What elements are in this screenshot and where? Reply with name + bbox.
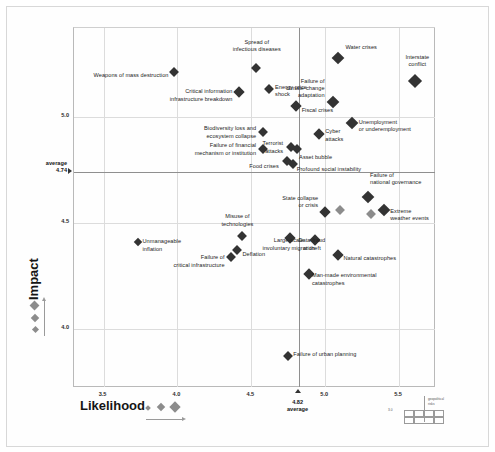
data-point-label: Extreme weather events [390, 208, 429, 223]
data-point-label: Unmanageable inflation [143, 238, 182, 253]
x-tick-label: 5.5 [390, 391, 406, 397]
average-likelihood-marker [295, 389, 301, 393]
data-point-label: Failure of climate-change adaptation [286, 78, 325, 100]
mini-cell [404, 417, 414, 424]
x-axis-title: Likelihood [80, 398, 145, 413]
data-point-marker[interactable] [290, 101, 301, 112]
data-point-label: Cyber attacks [325, 128, 343, 143]
data-point-marker[interactable] [362, 191, 375, 204]
gridline-x-3.5 [104, 28, 105, 387]
mini-legend-tick: 3.0 [388, 408, 392, 412]
data-point-label: Food crises [249, 163, 278, 170]
data-point-label: Interstate conflict [372, 54, 462, 69]
data-point-label: Natural catastrophes [343, 255, 396, 262]
data-point-label: Failure of national governance [370, 172, 421, 187]
y-tick-label: 4.0 [51, 324, 69, 330]
mini-cell [424, 410, 434, 417]
data-point-marker[interactable] [332, 51, 345, 64]
plot-right-border [434, 28, 435, 387]
mini-cell [434, 410, 444, 417]
plot-bottom-border [74, 386, 435, 387]
data-point-marker[interactable] [283, 351, 293, 361]
y-tick-label: 4.5 [51, 218, 69, 224]
data-point-marker[interactable] [335, 205, 345, 215]
x-tick-label: 5.0 [316, 391, 332, 397]
mini-cell [414, 410, 424, 417]
data-point-label: Asset bubble [299, 154, 332, 161]
data-point-label: Terrorist attacks [263, 140, 284, 155]
gridline-x-4.5 [251, 28, 252, 387]
data-point-label: State collapse or crisis [282, 195, 318, 210]
data-point-marker[interactable] [133, 238, 141, 246]
data-point-marker[interactable] [378, 204, 391, 217]
data-point-label: Fiscal crises [302, 107, 333, 114]
gridline-x-4.0 [177, 28, 178, 387]
data-point-marker[interactable] [408, 74, 422, 88]
average-impact-marker [68, 168, 72, 174]
data-point-marker[interactable] [366, 209, 376, 219]
legend-arrow-up [42, 297, 46, 301]
data-point-marker[interactable] [314, 128, 325, 139]
average-likelihood-label: 4.82 average [273, 399, 323, 414]
data-point-label: Profound social instability [297, 166, 361, 173]
mini-legend-line [424, 396, 425, 422]
gridline-y-4.0 [74, 329, 435, 330]
data-point-marker[interactable] [264, 84, 274, 94]
mini-legend-label-1: geopolitical [428, 397, 444, 401]
data-point-label: Spread of infectious diseases [212, 39, 302, 54]
legend-arrow-right [182, 417, 186, 421]
average-impact-label: average 4.74 [23, 160, 67, 175]
data-point-marker[interactable] [234, 86, 245, 97]
data-point-label: Critical information infrastructure brea… [170, 88, 233, 103]
data-point-marker[interactable] [345, 117, 358, 130]
data-point-label: Failure of financial mechanism or instit… [195, 142, 257, 157]
x-tick-label: 4.5 [242, 391, 258, 397]
data-point-label: Weapons of mass destruction [94, 72, 169, 79]
legend-h-line [146, 419, 182, 420]
data-point-label: Failure of urban planning [293, 351, 356, 358]
x-tick-label: 4.0 [168, 391, 184, 397]
data-point-marker[interactable] [320, 207, 331, 218]
mini-cell [404, 410, 414, 417]
data-point-label: Man-made environmental catastrophes [312, 272, 377, 287]
y-tick-label: 5.0 [51, 112, 69, 118]
data-point-marker[interactable] [226, 252, 236, 262]
legend-axis-line [44, 301, 45, 336]
data-point-label: Unemployment or underemployment [359, 119, 411, 134]
gridline-y-5.0 [74, 117, 435, 118]
data-point-label: Water crises [345, 44, 376, 51]
data-point-label: Deflation [243, 251, 266, 258]
data-point-label: Biodiversity loss and ecosystem collapse [204, 125, 256, 140]
mini-legend: geopolitical risks 3.0 [398, 392, 458, 434]
global-risks-landscape-chart: Impact Likelihood geopolitical risks 3.0… [0, 0, 495, 452]
mini-legend-label-2: risks [428, 402, 435, 406]
data-point-marker[interactable] [258, 127, 268, 137]
data-point-label: Misuse of technologies [192, 213, 282, 228]
data-point-label: Failure of critical infrastructure [173, 254, 224, 269]
data-point-label: Data fraud or theft [267, 237, 357, 252]
y-axis-title: Impact [26, 258, 41, 300]
mini-cell [434, 417, 444, 424]
plot-area [73, 27, 435, 387]
x-tick-label: 3.5 [95, 391, 111, 397]
